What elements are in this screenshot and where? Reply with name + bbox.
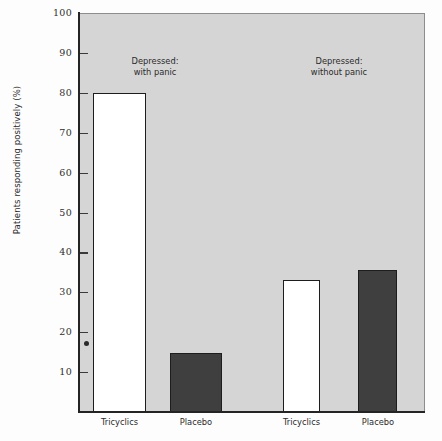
y-tick-mark-90 [80,53,88,54]
y-tick-60: 60 [0,167,72,179]
y-tick-mark-30 [80,292,88,293]
y-tick-label-100: 100 [28,7,72,18]
y-axis-line [78,12,80,413]
y-tick-mark-60 [80,173,88,174]
y-tick-mark-40 [80,252,88,253]
y-tick-70: 70 [0,127,72,139]
group-note-line1: Depressed: [316,56,363,66]
bar-placebo-without-panic [358,270,397,412]
group-note-without-panic: Depressed:without panic [277,56,401,78]
y-tick-80: 80 [0,87,72,99]
y-tick-50: 50 [0,207,72,219]
bar-placebo-with-panic [170,353,222,412]
y-tick-mark-70 [80,133,88,134]
y-tick-label-90: 90 [28,47,72,58]
plot-frame-right [424,13,425,412]
group-note-line2: without panic [311,67,367,77]
group-note-line1: Depressed: [132,56,179,66]
x-label-tricyclics-1: Tricyclics [82,417,157,427]
x-axis-line [78,411,425,413]
y-tick-label-20: 20 [28,326,72,337]
bar-tricyclics-with-panic [93,93,146,412]
y-tick-30: 30 [0,286,72,298]
y-tick-10: 10 [0,366,72,378]
y-tick-mark-50 [80,213,88,214]
bar-chart-figure: Patients responding positively (%) 100 9… [0,0,442,441]
plot-frame-top [79,13,425,14]
group-note-line2: with panic [134,67,177,77]
y-tick-label-80: 80 [28,87,72,98]
y-tick-mark-80 [80,93,88,94]
y-tick-mark-20 [80,332,88,333]
bar-tricyclics-without-panic [283,280,320,412]
y-tick-label-60: 60 [28,167,72,178]
y-tick-mark-10 [80,372,88,373]
y-tick-label-30: 30 [28,286,72,297]
y-tick-label-10: 10 [28,366,72,377]
scan-speck-artifact [84,341,89,346]
y-tick-label-70: 70 [28,127,72,138]
x-label-tricyclics-2: Tricyclics [265,417,338,427]
y-tick-label-40: 40 [28,246,72,257]
y-tick-100: 100 [0,7,72,19]
x-label-placebo-2: Placebo [344,417,412,427]
group-note-with-panic: Depressed:with panic [100,56,210,78]
y-tick-label-50: 50 [28,207,72,218]
y-tick-90: 90 [0,47,72,59]
y-tick-40: 40 [0,246,72,258]
x-label-placebo-1: Placebo [162,417,230,427]
y-tick-20: 20 [0,326,72,338]
